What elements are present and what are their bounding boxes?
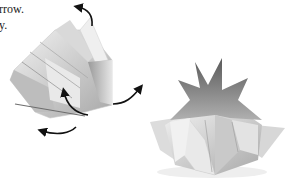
illustration	[0, 0, 292, 184]
arrow-bottom-icon	[42, 127, 76, 134]
arrow-right-icon	[113, 88, 140, 104]
completed-vase-figure	[150, 58, 285, 178]
folded-model-figure	[10, 18, 112, 118]
